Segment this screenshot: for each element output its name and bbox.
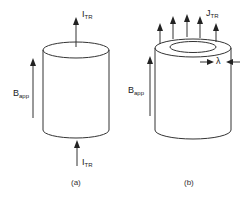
current-density-label: JTR bbox=[206, 9, 219, 19]
current-in-arrow-icon bbox=[74, 140, 80, 166]
solid-cylinder bbox=[43, 42, 109, 138]
current-bottom-label: ITR bbox=[82, 158, 93, 168]
applied-field-arrow-icon bbox=[147, 56, 153, 116]
current-top-label: ITR bbox=[82, 10, 93, 20]
penetration-depth-label: λ bbox=[216, 57, 221, 66]
applied-field-arrow-icon bbox=[30, 58, 36, 118]
caption-b: (b) bbox=[184, 179, 194, 187]
current-density-arrows bbox=[160, 21, 216, 44]
hollow-cylinder bbox=[155, 39, 231, 139]
caption-a: (a) bbox=[71, 179, 81, 187]
applied-field-label-a: Bapp bbox=[13, 89, 29, 99]
diagram-canvas bbox=[0, 0, 241, 198]
applied-field-label-b: Bapp bbox=[128, 86, 144, 96]
